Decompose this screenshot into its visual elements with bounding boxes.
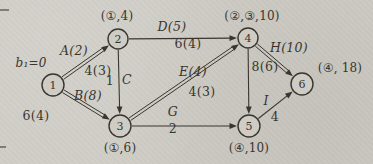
node-5: 5 bbox=[238, 115, 260, 137]
arrowhead bbox=[285, 91, 293, 98]
annotation-node-5: (④,10) bbox=[229, 142, 269, 154]
network-diagram: 123456 A(2)4(3)B(8)6(4)D(5)6(4)1CE(4)4(3… bbox=[0, 0, 373, 164]
label-4-5-cost: 8(6) bbox=[252, 61, 279, 74]
node-3-number: 3 bbox=[117, 120, 124, 133]
label-I: I bbox=[263, 95, 268, 108]
label-3-4-cost: 4(3) bbox=[189, 86, 216, 99]
label-H: H(10) bbox=[270, 42, 308, 55]
label-B: B(8) bbox=[74, 90, 102, 103]
node-1: 1 bbox=[42, 74, 64, 96]
label-2-3-flow: 1 bbox=[106, 75, 114, 88]
node-6: 6 bbox=[291, 73, 313, 95]
label-E: E(4) bbox=[179, 66, 207, 79]
page-rule-mark bbox=[0, 146, 6, 148]
arrowhead bbox=[117, 106, 123, 114]
node-6-number: 6 bbox=[299, 78, 306, 91]
label-A: A(2) bbox=[60, 45, 88, 58]
node-4: 4 bbox=[238, 28, 258, 48]
arrowhead bbox=[229, 35, 237, 41]
node-2-number: 2 bbox=[115, 33, 122, 46]
label-5-6-cost: 4 bbox=[271, 111, 279, 124]
edge-3-4 bbox=[129, 44, 239, 120]
node-1-number: 1 bbox=[50, 79, 57, 92]
annotation-node-3: (①,6) bbox=[104, 142, 137, 154]
arrowhead bbox=[246, 106, 252, 114]
annotation-node-4: (②,③,10) bbox=[224, 10, 279, 22]
annotation-node-6: (④, 18) bbox=[318, 62, 362, 74]
label-D: D(5) bbox=[158, 21, 187, 34]
arrowhead bbox=[230, 123, 238, 129]
edge-3-5 bbox=[132, 123, 237, 129]
arrowhead bbox=[231, 44, 239, 51]
label-C: C bbox=[122, 74, 132, 87]
node-3: 3 bbox=[109, 115, 131, 137]
annotation-b1: b₁=0 bbox=[16, 57, 47, 69]
label-3-5-cost: 2 bbox=[169, 123, 177, 136]
label-1-3-cost: 6(4) bbox=[23, 110, 50, 123]
label-G: G bbox=[168, 106, 178, 119]
annotation-node-2: (①,4) bbox=[101, 10, 134, 22]
label-2-4-cost: 6(4) bbox=[175, 38, 202, 51]
arrowhead bbox=[285, 69, 293, 76]
node-5-number: 5 bbox=[246, 120, 253, 133]
node-2: 2 bbox=[108, 29, 128, 49]
node-4-number: 4 bbox=[245, 32, 252, 45]
page-rule-mark bbox=[0, 9, 9, 11]
arrowhead bbox=[101, 45, 109, 52]
